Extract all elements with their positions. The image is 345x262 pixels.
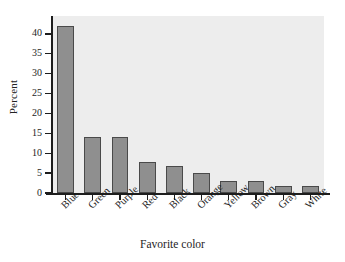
bar [139, 162, 156, 193]
y-axis-tick [45, 133, 52, 134]
y-axis-tick-label: 10 [20, 148, 42, 158]
y-axis-tick-label: 0 [20, 188, 42, 198]
x-axis-title: Favorite color [0, 238, 345, 250]
bar-chart-figure: Percent 0510152025303540 BlueGreenPurple… [0, 0, 345, 262]
bar [112, 137, 129, 193]
y-axis-tick [45, 33, 52, 34]
y-axis-tick-label: 35 [20, 48, 42, 58]
y-axis-tick-label: 5 [20, 168, 42, 178]
bar [57, 26, 74, 193]
y-axis-line [51, 16, 53, 194]
y-axis-tick [45, 192, 52, 193]
y-axis-tick-label: 20 [20, 108, 42, 118]
y-axis-tick-label: 15 [20, 128, 42, 138]
y-axis-tick [45, 153, 52, 154]
y-axis-tick-label: 25 [20, 88, 42, 98]
y-axis-tick-label: 40 [20, 28, 42, 38]
y-axis-tick [45, 93, 52, 94]
bar [84, 137, 101, 193]
y-axis-title-text: Percent [7, 80, 19, 114]
y-axis-tick [45, 73, 52, 74]
y-axis-tick [45, 172, 52, 173]
y-axis-tick-label: 30 [20, 68, 42, 78]
y-axis-tick [45, 113, 52, 114]
y-axis-tick [45, 53, 52, 54]
